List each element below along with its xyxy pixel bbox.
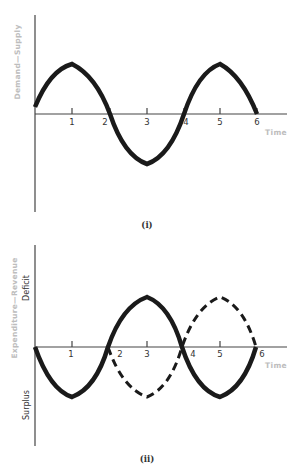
surplus-label: Surplus — [22, 390, 31, 420]
tick-label: 3 — [144, 117, 149, 127]
x-axis-title: Time — [265, 128, 287, 137]
tick-label: 5 — [217, 117, 222, 127]
deficit-label: Deficit — [22, 275, 31, 301]
x-ticks — [72, 341, 220, 347]
tick-label: 5 — [217, 349, 222, 359]
figure: 1 2 3 4 5 6 Time Demand—Supply (i) 1 2 3… — [0, 0, 302, 468]
tick-label: 1 — [69, 117, 74, 127]
y-axis-title: Expenditure—Revenue — [10, 257, 19, 358]
x-ticks — [72, 108, 257, 114]
chart-i: 1 2 3 4 5 6 Time Demand—Supply (i) — [13, 15, 287, 230]
y-axis-title: Demand—Supply — [13, 24, 22, 99]
tick-label: 6 — [259, 349, 264, 359]
tick-label: 2 — [117, 349, 122, 359]
chart-ii: 1 2 3 4 5 6 Time Expenditure—Revenue Def… — [10, 245, 287, 464]
tick-label: 3 — [144, 349, 149, 359]
tick-label: 2 — [102, 117, 107, 127]
tick-label: 4 — [190, 349, 195, 359]
x-axis-title: Time — [265, 361, 287, 370]
chart-caption: (i) — [141, 220, 152, 230]
tick-label: 6 — [254, 117, 259, 127]
chart-caption: (ii) — [140, 454, 155, 464]
tick-label: 1 — [68, 349, 73, 359]
